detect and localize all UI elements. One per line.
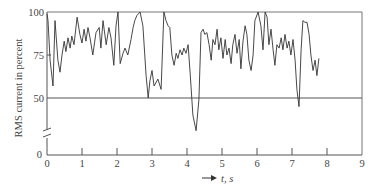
x-tick-label: 5 xyxy=(219,158,224,169)
y-ticks: 100 75 50 0 xyxy=(28,7,51,160)
x-tick-label: 4 xyxy=(184,158,190,169)
y-tick-75: 75 xyxy=(34,50,45,61)
y-tick-50: 50 xyxy=(34,93,45,104)
x-axis-title-group: t, s xyxy=(202,173,233,184)
x-tick-label: 3 xyxy=(149,158,154,169)
y-tick-0: 0 xyxy=(37,149,42,160)
x-axis-title: t, s xyxy=(221,173,233,184)
arrow-head-icon xyxy=(211,175,217,181)
x-tick-label: 7 xyxy=(289,158,294,169)
y-axis-title: RMS current in percent xyxy=(13,38,24,137)
rms-current-chart: RMS current in percent 100 75 50 0 01234… xyxy=(0,0,378,192)
x-tick-label: 9 xyxy=(359,158,364,169)
rms-current-line xyxy=(47,12,319,131)
axis-break-icon xyxy=(43,128,51,137)
x-tick-label: 1 xyxy=(79,158,84,169)
x-tick-label: 8 xyxy=(324,158,329,169)
x-ticks: 0123456789 xyxy=(44,148,364,169)
y-tick-100: 100 xyxy=(28,7,44,18)
x-tick-label: 2 xyxy=(114,158,119,169)
x-tick-label: 6 xyxy=(254,158,259,169)
x-tick-label: 0 xyxy=(44,158,49,169)
